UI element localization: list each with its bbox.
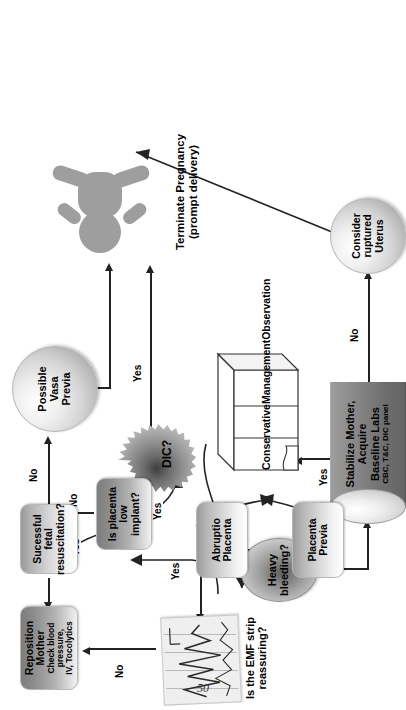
edge-label-resus-no: No xyxy=(28,467,39,484)
node-reposition-sub2: IV, Tocolytics xyxy=(65,621,74,674)
node-consider-ruptured-uterus[interactable]: Consider ruptured Uterus xyxy=(330,198,406,274)
node-stabilize-mother[interactable]: Stabilize Mother, Acquire Baseline Labs … xyxy=(330,378,404,524)
node-heavy-bleeding-line2: bleeding? xyxy=(279,544,291,596)
edge-vasa-terminate-seg2 xyxy=(109,269,111,389)
page-number: 50 xyxy=(0,681,406,696)
node-resus-line2: resuscitation? xyxy=(55,503,66,575)
edge-emf-no-arrowhead xyxy=(82,647,90,655)
edge-label-placenta-yes: Yes xyxy=(152,501,163,522)
node-uterus-line3: Uterus xyxy=(374,219,385,252)
terminate-caption-line1: Terminate Pregnancy xyxy=(174,134,186,250)
node-abruptio-placenta[interactable]: Abruptio Placenta xyxy=(196,502,248,578)
edge-resus-no-arrowhead xyxy=(44,436,52,444)
node-successful-fetal-resuscitation[interactable]: Sucessful fetal resuscitation? xyxy=(20,504,78,574)
node-reposition-sub1: Check blood pressure, xyxy=(47,611,65,685)
infant-figure-icon xyxy=(34,138,166,258)
figure-page: No Yes Yes No No Yes No xyxy=(0,0,406,710)
edge-bleeding-yes-seg2 xyxy=(367,526,369,570)
edge-vasa-terminate-arrowhead xyxy=(105,263,113,271)
edge-reposition-resus-seg xyxy=(48,578,50,602)
edge-emf-no-seg xyxy=(88,648,156,650)
node-conservative-management[interactable]: Conservative Management Observation xyxy=(210,350,306,474)
node-stabilize-subtitle: CBC, T&C, DIC panel xyxy=(381,404,390,484)
doc-line1: Conservative xyxy=(260,404,272,470)
doc-line2: Management xyxy=(260,340,272,404)
node-stabilize-title1: Stabilize Mother, xyxy=(344,401,357,488)
node-previa-line2: Previa xyxy=(318,524,329,556)
edge-label-emf-no: No xyxy=(114,663,125,680)
node-placenta-previa[interactable]: Placenta Previa xyxy=(292,502,344,578)
node-is-placenta-low-implant[interactable]: Is placenta low implant? xyxy=(96,478,152,550)
node-vasa-line3: Previa xyxy=(61,372,73,405)
edge-label-emf-yes: Yes xyxy=(170,561,181,582)
node-resus-line1: Sucessful fetal xyxy=(32,509,55,569)
terminate-caption-line2: (prompt delivery) xyxy=(187,145,199,239)
node-uterus-line2: ruptured xyxy=(362,214,373,257)
node-reposition-mother[interactable]: Reposition Mother Check blood pressure, … xyxy=(20,606,78,690)
edge-resus-no-seg xyxy=(48,441,50,505)
node-abruptio-line2: Placenta xyxy=(222,518,233,561)
flowchart-canvas: No Yes Yes No No Yes No xyxy=(0,0,406,710)
node-terminate-pregnancy-caption: Terminate Pregnancy (prompt delivery) xyxy=(174,104,199,280)
node-reposition-title: Reposition Mother xyxy=(24,611,47,685)
node-stabilize-title3: Baseline Labs xyxy=(369,407,382,481)
doc-line3: Observation xyxy=(260,279,272,340)
node-dic-label: DIC? xyxy=(161,440,174,468)
edge-label-stabilize-no: No xyxy=(349,327,360,344)
node-stabilize-title2: Acquire xyxy=(356,424,369,465)
node-possible-vasa-previa[interactable]: Possible Vasa Previa xyxy=(12,346,98,432)
edge-stabilize-no-seg xyxy=(368,277,370,385)
edge-label-dic-yes: Yes xyxy=(132,363,143,384)
node-terminate-pregnancy[interactable] xyxy=(34,138,166,258)
node-placenta-line2: low implant? xyxy=(118,483,141,545)
